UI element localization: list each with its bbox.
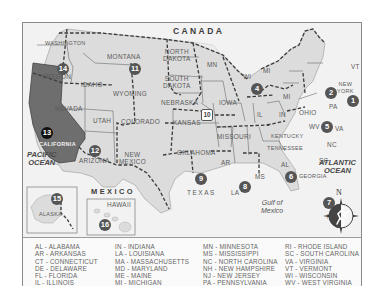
state-label-texas: TEXAS (187, 189, 216, 196)
legend-column-2: IN - INDIANA LA - LOUISIANA MA - MASSACH… (115, 243, 189, 287)
state-label-la: LA (231, 189, 239, 196)
state-label-arizona: ARIZONA (79, 157, 110, 164)
legend-item: NJ - NEW JERSEY (203, 272, 278, 279)
state-label-vt: VT (351, 63, 360, 70)
legend-item: IL - ILLINOIS (35, 279, 98, 286)
state-label-south-dakota: SOUTH DAKOTA (163, 75, 191, 89)
region-badge-14[interactable]: 14 (57, 63, 69, 75)
legend-item: AL - ALABAMA (35, 243, 98, 250)
region-badge-11[interactable]: 11 (129, 63, 141, 75)
legend-item: SC - SOUTH CAROLINA (285, 250, 359, 257)
state-label-california: CALIFORNIA (39, 141, 76, 148)
state-label-il: IL (257, 111, 263, 118)
legend-item: VA - VIRGINIA (285, 258, 359, 265)
legend-item: MS - MISSISSIPPI (203, 250, 278, 257)
state-label-wi: WI (243, 73, 251, 80)
legend-item: MD - MARYLAND (115, 265, 189, 272)
state-label-missouri: MISSOURI (217, 133, 251, 140)
state-label-sc: SC (319, 157, 328, 164)
mexico-label: MEXICO (91, 188, 135, 195)
map-frame: CANADA MEXICO PACIFIC OCEAN ATLANTIC OCE… (22, 22, 362, 286)
legend-item: NH - NEW HAMPSHIRE (203, 265, 278, 272)
state-label-washington: WASHINGTON (45, 40, 86, 47)
legend-item: WV - WEST VIRGINIA (285, 279, 359, 286)
legend-item: IN - INDIANA (115, 243, 189, 250)
state-label-wyoming: WYOMING (113, 90, 147, 97)
us-regions-map: CANADA MEXICO PACIFIC OCEAN ATLANTIC OCE… (23, 23, 361, 237)
legend-item: CT - CONNECTICUT (35, 258, 98, 265)
legend-item: ME - MAINE (115, 272, 189, 279)
state-label-north-dakota: NORTH DAKOTA (163, 48, 191, 62)
state-label-nevada: NEVADA (55, 105, 83, 112)
state-label-iowa: IOWA (219, 99, 237, 106)
state-label-kentucky: KENTUCKY (271, 133, 303, 140)
state-label-montana: MONTANA (107, 53, 141, 60)
legend-column-1: AL - ALABAMA AR - ARKANSAS CT - CONNECTI… (35, 243, 98, 287)
state-label-mi-upper: MI (263, 67, 271, 74)
state-label-nebraska: NEBRASKA (161, 99, 198, 106)
legend-item: NC - NORTH CAROLINA (203, 258, 278, 265)
legend-item: FL - FLORIDA (35, 272, 98, 279)
state-label-tennessee: TENNESSEE (267, 145, 303, 152)
legend-item: MI - MICHIGAN (115, 279, 189, 286)
gulf-of-mexico-label: Gulf of Mexico (261, 199, 283, 215)
state-label-idaho: IDAHO (81, 81, 103, 88)
state-label-nc: NC (327, 141, 337, 148)
state-label-ohio: OHIO (299, 109, 317, 116)
region-badge-16[interactable]: 16 (99, 219, 111, 231)
legend-item: MA - MASSACHUSETTS (115, 258, 189, 265)
region-badge-9[interactable]: 9 (195, 173, 207, 185)
region-badge-6[interactable]: 6 (285, 171, 297, 183)
state-label-mn: MN (207, 61, 218, 68)
state-abbreviation-legend: AL - ALABAMA AR - ARKANSAS CT - CONNECTI… (23, 237, 361, 286)
state-label-wv: WV (309, 123, 320, 130)
region-badge-13[interactable]: 13 (41, 127, 53, 139)
legend-item: AR - ARKANSAS (35, 250, 98, 257)
state-label-colorado: COLORADO (121, 118, 160, 125)
region-badge-1[interactable]: 1 (347, 95, 359, 107)
state-label-mi-lower: MI (283, 93, 291, 100)
state-label-kansas: KANSAS (173, 119, 201, 126)
legend-item: LA - LOUISIANA (115, 250, 189, 257)
state-label-oklahoma: OKLAHOMA (177, 149, 216, 156)
state-label-utah: UTAH (93, 117, 111, 124)
legend-item: WI - WISCONSIN (285, 272, 359, 279)
pacific-ocean-label: PACIFIC OCEAN (27, 151, 56, 167)
legend-item: VT - VERMONT (285, 265, 359, 272)
state-label-georgia: GEORGIA (299, 173, 327, 180)
state-label-pa: PA (329, 103, 338, 110)
state-label-va: VA (335, 125, 344, 132)
map-shapes (23, 23, 361, 237)
state-label-al: AL (281, 161, 289, 168)
region-badge-5[interactable]: 5 (321, 121, 333, 133)
legend-column-4: RI - RHODE ISLAND SC - SOUTH CAROLINA VA… (285, 243, 359, 287)
state-label-oregon: OREGON (41, 73, 71, 80)
region-badge-15[interactable]: 15 (51, 193, 63, 205)
region-badge-8[interactable]: 8 (239, 181, 251, 193)
state-label-ar: AR (221, 159, 230, 166)
state-label-new-york: NEW YORK (337, 81, 354, 95)
region-badge-2[interactable]: 2 (325, 87, 337, 99)
legend-item: MN - MINNESOTA (203, 243, 278, 250)
legend-item: RI - RHODE ISLAND (285, 243, 359, 250)
region-badge-10[interactable]: 10 (201, 109, 213, 121)
legend-item: PA - PENNSYLVANIA (203, 279, 278, 286)
region-badge-12[interactable]: 12 (89, 145, 101, 157)
state-label-new-mexico: NEW MEXICO (119, 151, 146, 165)
canada-label: CANADA (173, 28, 224, 35)
legend-item: DE - DELAWARE (35, 265, 98, 272)
legend-column-3: MN - MINNESOTA MS - MISSISSIPPI NC - NOR… (203, 243, 278, 287)
state-label-in: IN (279, 111, 286, 118)
region-badge-4[interactable]: 4 (251, 83, 263, 95)
state-label-alaska: ALASKA (39, 211, 62, 218)
state-label-hawaii: HAWAII (107, 201, 131, 208)
compass-rose-icon: N (321, 191, 361, 237)
state-label-ms: MS (255, 173, 265, 180)
